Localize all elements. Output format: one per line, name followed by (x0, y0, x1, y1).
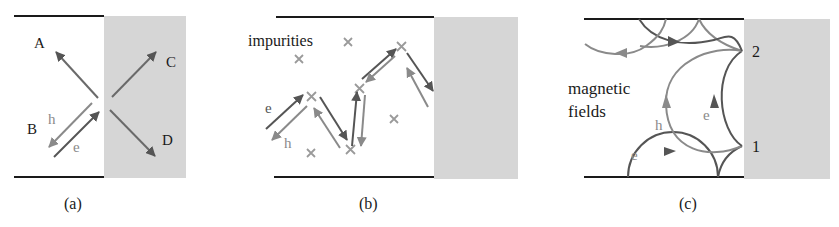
caption-a: (a) (64, 195, 82, 213)
label-b: B (27, 121, 37, 137)
caption-c: (c) (679, 195, 697, 213)
arrow-icon (664, 147, 676, 156)
superconductor-region (434, 17, 518, 179)
impurity-icon (355, 84, 364, 93)
label-d: D (162, 132, 173, 148)
panel-b: impurities (248, 17, 518, 213)
label-e-bottom: e (631, 147, 638, 163)
impurity-icon (390, 115, 398, 123)
panel-a: A B C D h e (a) (14, 16, 186, 213)
superconductor-region (104, 16, 186, 178)
impurity-icon (307, 92, 316, 101)
arrow-icon (662, 94, 671, 108)
impurity-icon (307, 149, 315, 157)
electron-orbit (722, 51, 742, 146)
panel-c: magnetic fields h e e 1 2 (c) (568, 19, 830, 213)
label-e: e (265, 100, 272, 116)
label-impurities: impurities (248, 32, 313, 50)
label-magnetic: magnetic (568, 79, 631, 98)
label-c: C (166, 54, 176, 70)
label-fields: fields (568, 102, 606, 121)
impurity-icon (344, 38, 352, 46)
label-h: h (48, 111, 56, 127)
label-point-1: 1 (752, 138, 760, 155)
label-e: e (73, 139, 80, 155)
label-h: h (655, 117, 663, 133)
label-point-2: 2 (752, 43, 760, 60)
label-e-right: e (703, 107, 710, 123)
impurity-icon (346, 145, 355, 154)
label-a: A (34, 35, 45, 51)
label-h: h (284, 135, 292, 151)
arrow-icon (615, 48, 627, 58)
arrow-icon (710, 94, 719, 108)
electron-path (266, 49, 433, 146)
top-skipping-orbit (699, 19, 742, 51)
impurity-icon (295, 55, 303, 63)
electron-skipping-orbit (628, 132, 718, 177)
hole-orbit (666, 50, 742, 152)
impurity-icon (397, 42, 406, 51)
figure-canvas: A B C D h e (a) impurities (0, 0, 839, 227)
arrow-a-icon (56, 52, 98, 98)
caption-b: (b) (359, 195, 378, 213)
arrow-icon (668, 36, 680, 47)
